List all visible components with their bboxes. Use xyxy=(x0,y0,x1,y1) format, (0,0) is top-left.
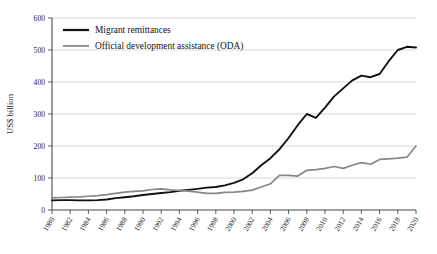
y-tick-label: 300 xyxy=(34,110,46,119)
x-tick-label: 1998 xyxy=(205,215,220,233)
x-tick-label: 2004 xyxy=(259,215,274,233)
x-tick-label: 2002 xyxy=(241,215,256,233)
x-axis-tick-labels: 1980198219841986198819901992199419961998… xyxy=(41,215,420,233)
x-tick-label: 1996 xyxy=(187,215,202,233)
series-line-migrant-remittances xyxy=(52,47,416,201)
y-tick-label: 0 xyxy=(41,206,45,215)
x-tick-label: 2012 xyxy=(332,215,347,233)
line-chart: 0100200300400500600 19801982198419861988… xyxy=(0,0,437,254)
x-tick-label: 2006 xyxy=(278,215,293,233)
x-tick-label: 1982 xyxy=(59,215,74,233)
data-series xyxy=(52,47,416,201)
x-tick-label: 2000 xyxy=(223,215,238,233)
x-tick-label: 1980 xyxy=(41,215,56,233)
x-tick-label: 2014 xyxy=(350,215,365,233)
y-tick-label: 200 xyxy=(34,142,46,151)
x-tick-label: 2016 xyxy=(369,215,384,233)
x-tick-label: 1986 xyxy=(96,215,111,233)
chart-legend: Migrant remittancesOfficial development … xyxy=(63,25,243,52)
x-tick-label: 1984 xyxy=(77,215,92,233)
x-tick-label: 1988 xyxy=(114,215,129,233)
series-line-official-development-assistance-oda xyxy=(52,146,416,198)
chart-container: 0100200300400500600 19801982198419861988… xyxy=(0,0,437,254)
y-tick-label: 400 xyxy=(34,78,46,87)
x-axis-ticks xyxy=(52,210,416,214)
legend-label: Official development assistance (ODA) xyxy=(95,41,243,52)
x-tick-label: 2020 xyxy=(405,215,420,233)
x-tick-label: 2018 xyxy=(387,215,402,233)
x-tick-label: 1990 xyxy=(132,215,147,233)
legend-label: Migrant remittances xyxy=(95,25,171,35)
x-tick-label: 1994 xyxy=(168,215,183,233)
y-axis-tick-labels: 0100200300400500600 xyxy=(34,14,46,215)
y-tick-label: 500 xyxy=(34,46,46,55)
y-axis-ticks xyxy=(48,18,52,210)
x-tick-label: 2010 xyxy=(314,215,329,233)
x-tick-label: 2008 xyxy=(296,215,311,233)
x-tick-label: 1992 xyxy=(150,215,165,233)
y-axis-title: US$ billion xyxy=(5,93,15,134)
y-tick-label: 100 xyxy=(34,174,46,183)
y-tick-label: 600 xyxy=(34,14,46,23)
